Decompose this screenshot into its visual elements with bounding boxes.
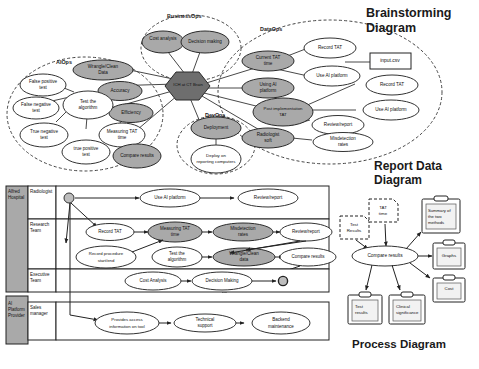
task-cost-analysis-executive[interactable]: Cost Analysis [125, 272, 181, 290]
node-false-positive-test[interactable]: False positivetest [20, 74, 66, 96]
node-cost-analysis[interactable]: Cost analysis [142, 31, 184, 53]
task-record-procedure-start-end[interactable]: Record procedure start/end [76, 246, 136, 268]
title-process: Process Diagram [352, 338, 446, 350]
node-using-ai-platform[interactable]: Using AIplatform [242, 78, 294, 98]
file-label: input.csv [380, 57, 400, 63]
node-label: Deployment [204, 125, 229, 130]
task-record-tat-research[interactable]: Record TAT [86, 224, 134, 241]
output-label-l1: Clinical [396, 304, 410, 309]
task-label: Technicalsupport [196, 317, 215, 327]
node-radiologist-soft[interactable]: Radiologistsoft [242, 128, 294, 148]
node-label: Efficiency [121, 110, 141, 115]
task-label-l1: Backend [272, 317, 290, 322]
task-provides-access-information[interactable]: Provides access information on tool [95, 312, 159, 334]
task-label-l2: information on tool [109, 324, 144, 329]
output-clinical-significance[interactable]: Clinical significance [389, 292, 425, 324]
pool-label-alfred-hospital-l2: Hospital [8, 195, 24, 200]
output-label: Graphs [442, 253, 457, 258]
task-label-l1: Provides access [111, 317, 142, 322]
task-label: Record TAT [98, 229, 122, 234]
node-label: Using AIplatform [259, 82, 276, 93]
task-label: Decision Making [205, 278, 239, 283]
task-label-l2: start/end [98, 258, 115, 263]
task-compare-results-research[interactable]: Compare results [280, 248, 336, 266]
node-current-tat-time[interactable]: Current TATtime [242, 51, 294, 71]
task-label: Review/report [254, 195, 283, 200]
node-label: Review/report [324, 122, 353, 127]
node-true-negative-test[interactable]: True negativetest [20, 123, 68, 147]
node-label: Cost analysis [149, 36, 177, 41]
task-label: Use AI platform [154, 195, 186, 200]
lane-label-research-team-l2: Team [30, 228, 41, 233]
node-review-report-brainstorm[interactable]: Review/report [312, 116, 364, 135]
task-label: Review/report [292, 229, 321, 234]
task-label: Test thealgorithm [168, 251, 187, 261]
node-label: Compare results [120, 153, 154, 158]
node-test-the-algorithm-brainstorm[interactable]: Test thealgorithm [63, 91, 113, 119]
pool-label-provider-l2: Platform [8, 307, 25, 312]
task-review-report-radiologist[interactable]: Review/report [238, 189, 298, 207]
group-label-aiops: AIOps [56, 59, 72, 65]
title-report-l1: Report Data [374, 159, 442, 173]
node-label: Decision making [188, 39, 222, 44]
output-graphs[interactable]: Graphs [433, 240, 465, 269]
lane-label-sales-manager-l1: Sales [30, 305, 42, 310]
lane-label-executive-team-l2: Team [30, 278, 41, 283]
output-cost[interactable]: Cost [433, 275, 465, 302]
central-topic-hexagon[interactable]: ICH at CT Brain [165, 72, 210, 100]
output-summary-two-methods[interactable]: Summary of the two methods [422, 196, 460, 233]
node-compare-results-brainstorm[interactable]: Compare results [113, 144, 161, 168]
pool-label-provider-l3: Provider [8, 313, 25, 318]
title-report-l2: Diagram [374, 173, 422, 187]
node-use-ai-platform-b[interactable]: Use AI platform [363, 100, 419, 120]
input-label-l2: Results [347, 228, 362, 233]
node-record-tat-b[interactable]: Record TAT [366, 75, 418, 95]
task-label-l1: Record procedure [89, 251, 124, 256]
input-label-l1: Test [350, 222, 359, 227]
lane-label-radiologist: Radiologist [30, 189, 53, 194]
file-input-csv-box[interactable]: input.csv [370, 53, 411, 69]
node-false-negative-test[interactable]: False negativetest [13, 97, 59, 119]
report-data-diagram: Report Data Diagram Test Results TAT tim… [340, 159, 465, 324]
task-use-ai-platform-radiologist[interactable]: Use AI platform [140, 189, 200, 207]
task-decision-making-executive[interactable]: Decision Making [192, 272, 252, 290]
process-compare-results-report[interactable]: Compare results [352, 246, 418, 266]
task-backend-maintenance[interactable]: Backend maintenance [252, 312, 310, 334]
node-label: Record TAT [380, 82, 404, 87]
node-use-ai-platform-a[interactable]: Use AI platform [304, 66, 360, 86]
node-post-implementation-tat[interactable]: Post implementationTAT [253, 98, 313, 126]
output-label-l2: the two [428, 214, 442, 219]
lane-label-executive-team-l1: Executive [30, 272, 50, 277]
task-review-report-research[interactable]: Review/report [280, 223, 332, 241]
group-label-dataops: DataOps [260, 26, 282, 32]
node-misdetection-rates-brainstorm[interactable]: Misdetectionrates [313, 133, 373, 152]
node-record-tat-a[interactable]: Record TAT [304, 38, 356, 58]
input-test-results[interactable]: Test Results [340, 216, 369, 239]
pool-label-provider-l1: AI [8, 301, 12, 306]
brainstorming-diagram: BusinessOps DataOps AIOps DevOps [7, 6, 451, 175]
diagram-canvas: BusinessOps DataOps AIOps DevOps [0, 0, 479, 369]
output-label-l1: Test [355, 304, 364, 309]
node-deployment[interactable]: Deployment [191, 117, 241, 139]
node-true-positive-test[interactable]: true positivetest [62, 140, 110, 164]
task-misdetection-rates-research[interactable]: Misdetectionrates [213, 223, 273, 241]
node-wrangle-clean-data-brainstorm[interactable]: Wrangle/CleanData [73, 60, 133, 80]
node-efficiency[interactable]: Efficiency [109, 104, 153, 123]
title-brainstorming: BrainstormingDiagram [366, 6, 451, 35]
node-label: Test thealgorithm [79, 99, 98, 110]
output-test-results[interactable]: Test results [348, 292, 382, 324]
pool-band-alfred-hospital [6, 186, 28, 292]
start-event[interactable] [64, 193, 74, 203]
node-decision-making[interactable]: Decision making [181, 31, 229, 53]
node-deploy-on-reporting-computers[interactable]: Deploy onreporting computers [191, 145, 241, 173]
task-test-the-algorithm-research[interactable]: Test thealgorithm [152, 247, 202, 267]
task-technical-support[interactable]: Technicalsupport [174, 314, 236, 332]
output-label-l2: results [355, 310, 368, 315]
lane-label-sales-manager-l2: manager [30, 311, 48, 316]
end-event[interactable] [278, 276, 287, 285]
node-measuring-tat-time-brainstorm[interactable]: Measuring TATtime [99, 123, 145, 147]
central-topic-label: ICH at CT Brain [173, 82, 203, 87]
task-label-l2: maintenance [268, 324, 294, 329]
input-tat-time[interactable]: TAT time [369, 199, 398, 222]
task-measuring-tat-time-research[interactable]: Measuring TATtime [148, 222, 202, 242]
